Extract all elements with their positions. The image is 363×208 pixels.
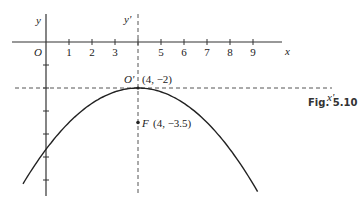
x-tick-label: 6 — [181, 46, 187, 58]
y-prime-label: y' — [123, 13, 132, 25]
x-tick-label: 8 — [227, 46, 233, 58]
focus-point — [136, 121, 140, 125]
vertex-label: (4, −2) — [142, 73, 172, 86]
x-tick-label: 9 — [250, 46, 256, 58]
x-axis-label: x — [284, 45, 290, 57]
origin-label: O — [34, 46, 42, 58]
parabola-diagram: 12356789 y x O y' x' O' (4, −2) F (4, −3… — [0, 0, 363, 208]
focus-name-label: F — [141, 117, 149, 129]
y-axis-label: y — [35, 14, 41, 26]
x-tick-label: 7 — [204, 46, 210, 58]
vertex-point — [136, 86, 139, 89]
translated-origin-label: O' — [124, 73, 135, 85]
parabola-curve — [23, 88, 258, 192]
focus-coord-label: (4, −3.5) — [153, 117, 192, 130]
figure-caption: Fig. 5.10 — [308, 97, 357, 108]
x-tick-label: 3 — [112, 46, 118, 58]
x-tick-label: 5 — [158, 46, 164, 58]
x-tick-label: 2 — [89, 46, 95, 58]
x-tick-label: 1 — [66, 46, 72, 58]
